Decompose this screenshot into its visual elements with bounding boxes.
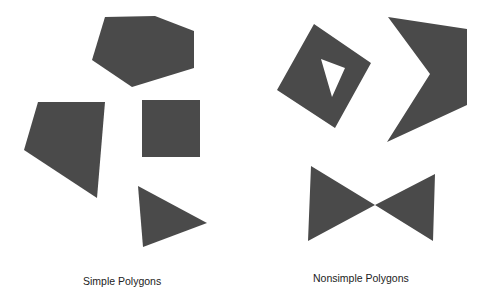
simple-polygons-group [24, 16, 207, 247]
chevron-shape [387, 17, 467, 142]
triangle-shape [138, 186, 207, 247]
nonsimple-polygons-label: Nonsimple Polygons [313, 272, 409, 284]
pentagon-shape [92, 16, 194, 87]
quadrilateral-shape [24, 102, 105, 198]
nonsimple-polygons-group [277, 17, 467, 241]
diamond-with-hole-shape [277, 24, 371, 128]
simple-polygons-label: Simple Polygons [83, 275, 161, 287]
polygon-diagram [0, 0, 490, 305]
bowtie-shape [308, 166, 435, 241]
square-shape [142, 100, 200, 157]
